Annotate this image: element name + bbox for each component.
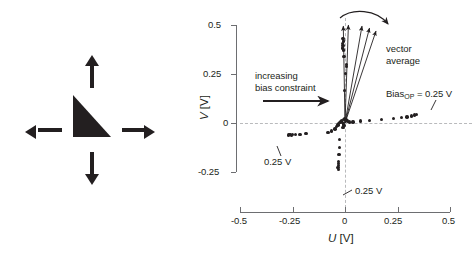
scatter-plot: 0.5 0.25 0 -0.25 V [V] -0.5 -0.25 0 0.25… — [200, 0, 472, 264]
vector-average-label: vector average — [386, 43, 420, 67]
data-point — [341, 126, 344, 129]
bias-op-label: BiasOP = 0.25 V — [386, 88, 452, 103]
bottom-branch-leader-line — [343, 190, 352, 195]
vector-fan — [343, 25, 376, 123]
vector-average-line1: vector — [386, 43, 420, 55]
bias-op-suffix: = 0.25 V — [414, 88, 452, 99]
icon-panel — [0, 0, 200, 264]
data-point — [298, 133, 301, 136]
right-triangle-icon — [73, 95, 111, 137]
data-point — [342, 55, 345, 58]
data-point — [359, 119, 362, 122]
vector-overlay — [200, 0, 472, 264]
bias-op-subscript: OP — [404, 93, 414, 100]
data-point — [351, 120, 354, 123]
vector-4 — [345, 28, 370, 123]
vector-average-line2: average — [386, 55, 420, 67]
bottom-branch-label: 0.25 V — [355, 185, 382, 197]
data-point — [337, 153, 340, 156]
left-branch-label: 0.25 V — [264, 156, 291, 168]
increasing-bias-line2: bias constraint — [255, 82, 316, 94]
bias-op-prefix: Bias — [386, 88, 404, 99]
vector-5 — [345, 31, 376, 123]
increasing-bias-line1: increasing — [255, 70, 316, 82]
left-branch-leader-line — [277, 146, 281, 156]
data-point — [405, 115, 408, 118]
figure-root: 0.5 0.25 0 -0.25 V [V] -0.5 -0.25 0 0.25… — [0, 0, 472, 264]
rotation-sweep-arrow — [340, 11, 388, 24]
increasing-bias-constraint-label: increasing bias constraint — [255, 70, 316, 94]
